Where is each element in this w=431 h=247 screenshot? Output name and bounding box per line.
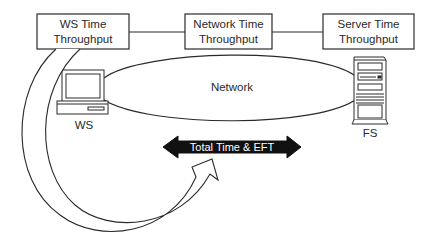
workstation-computer-icon xyxy=(57,70,108,114)
curved-return-arrow-icon xyxy=(22,49,218,231)
ws-time-throughput-box: WS Time Throughput xyxy=(37,14,129,49)
total-time-eft-arrow: Total Time & EFT xyxy=(163,136,301,158)
server-box-line2: Throughput xyxy=(339,33,399,45)
file-server-tower-icon xyxy=(352,57,388,124)
throughput-diagram: WS Time Throughput Network Time Throughp… xyxy=(0,0,431,247)
network-box-line1: Network Time xyxy=(193,18,263,30)
total-time-eft-label: Total Time & EFT xyxy=(190,141,275,153)
ws-box-line2: Throughput xyxy=(54,33,114,45)
network-time-throughput-box: Network Time Throughput xyxy=(185,14,272,49)
ws-box-line1: WS Time xyxy=(60,18,107,30)
server-time-throughput-box: Server Time Throughput xyxy=(323,14,414,49)
network-box-line2: Throughput xyxy=(199,33,259,45)
server-box-line1: Server Time xyxy=(338,18,400,30)
workstation-label: WS xyxy=(75,119,94,131)
file-server-label: FS xyxy=(363,127,378,139)
network-label: Network xyxy=(211,81,253,93)
